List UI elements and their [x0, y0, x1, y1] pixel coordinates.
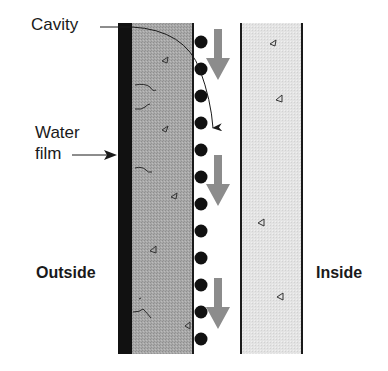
flow-arrow-down-icon [206, 155, 230, 206]
outer-wall-layer [132, 23, 193, 354]
cavity-spacer-dots [195, 36, 208, 346]
flow-arrow-down-icon [206, 29, 230, 80]
drainage-flow-arrows [206, 29, 230, 329]
water-film-barrier [118, 23, 132, 354]
flow-arrow-down-icon [206, 278, 230, 329]
inner-wall-layer [241, 23, 302, 354]
water-film-pointer [72, 150, 117, 160]
wall-section-diagram [0, 0, 388, 371]
